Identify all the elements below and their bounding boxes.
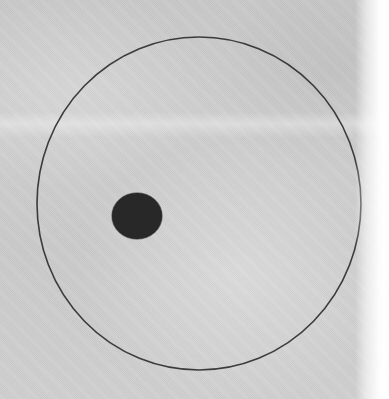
outer-circle-outline xyxy=(37,37,361,370)
figure-artwork-layer xyxy=(0,0,389,399)
figure-canvas: Scanned halftone figure: small filled di… xyxy=(0,0,389,399)
